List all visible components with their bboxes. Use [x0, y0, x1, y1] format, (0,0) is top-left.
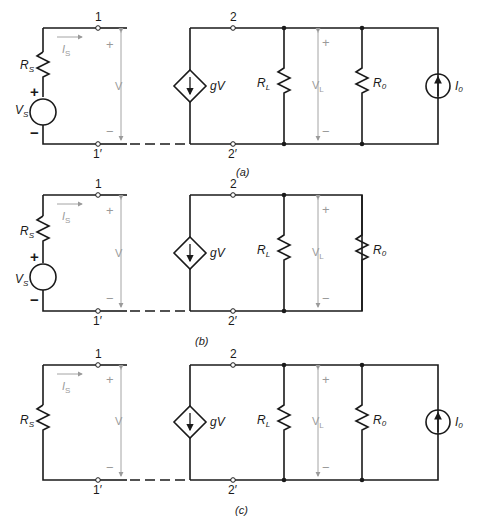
gv-label: gV [210, 79, 226, 93]
svg-text:1: 1 [95, 177, 102, 191]
svg-text:1′: 1′ [93, 483, 103, 497]
rl-label: RL [257, 413, 270, 429]
r0-resistor [356, 28, 368, 144]
rl-resistor [278, 365, 290, 480]
voltage-source-icon [30, 99, 56, 125]
caption-c: (c) [235, 504, 248, 516]
is-label: IS [62, 210, 70, 225]
port1-prime-label: 1′ [93, 147, 103, 161]
svg-text:+: + [106, 203, 114, 218]
caption-a: (a) [236, 166, 250, 178]
r0-resistor [356, 365, 368, 480]
port1-label: 1 [95, 10, 102, 24]
svg-text:−: − [30, 124, 39, 141]
rs-label: RS [20, 413, 35, 429]
svg-text:−: − [322, 291, 330, 306]
svg-text:+: + [30, 83, 39, 100]
r0-label: R0 [373, 76, 387, 91]
r0-label: R0 [373, 413, 387, 428]
terminal-2 [231, 26, 236, 31]
terminal-1-prime [96, 142, 101, 147]
rl-resistor [278, 28, 290, 144]
port2-prime-label: 2′ [228, 147, 238, 161]
is-label: IS [62, 380, 70, 395]
panel-c [37, 363, 450, 483]
svg-text:−: − [30, 291, 39, 308]
rs-resistor [37, 216, 49, 246]
svg-text:gV: gV [210, 415, 226, 429]
vs-label: VS [15, 272, 29, 288]
svg-text:−: − [106, 460, 114, 475]
vs-label: VS [15, 103, 29, 119]
svg-text:+: + [106, 372, 114, 387]
svg-text:−: − [322, 460, 330, 475]
svg-text:+: + [106, 37, 114, 52]
rl-label: RL [257, 76, 270, 92]
r0-label: R0 [373, 243, 387, 258]
voltage-source-icon [30, 264, 56, 290]
svg-text:2: 2 [230, 177, 237, 191]
terminal-2-prime [231, 142, 236, 147]
i0-label: I0 [455, 415, 463, 430]
panel-a [30, 26, 450, 147]
rl-label: RL [257, 243, 270, 259]
svg-text:V: V [115, 247, 123, 259]
v-label: V [115, 80, 123, 92]
svg-text:+: + [322, 372, 330, 387]
svg-text:2′: 2′ [228, 314, 238, 328]
terminal-1 [96, 26, 101, 31]
svg-text:2: 2 [230, 347, 237, 361]
svg-text:1′: 1′ [93, 314, 103, 328]
svg-text:+: + [322, 202, 330, 217]
svg-text:+: + [30, 248, 39, 265]
svg-text:−: − [106, 291, 114, 306]
is-label: IS [62, 43, 70, 58]
svg-text:−: − [322, 124, 330, 139]
svg-text:V: V [115, 415, 123, 427]
rs-label: RS [20, 224, 35, 240]
svg-text:+: + [322, 35, 330, 50]
svg-text:1: 1 [95, 347, 102, 361]
svg-text:gV: gV [210, 246, 226, 260]
caption-b: (b) [195, 335, 209, 347]
rs-resistor [37, 52, 49, 82]
i0-label: I0 [455, 79, 463, 94]
svg-text:2′: 2′ [228, 483, 238, 497]
port2-label: 2 [230, 10, 237, 24]
rl-resistor [278, 195, 290, 311]
rs-label: RS [20, 58, 35, 74]
rs-resistor [37, 405, 49, 435]
svg-text:−: − [106, 124, 114, 139]
